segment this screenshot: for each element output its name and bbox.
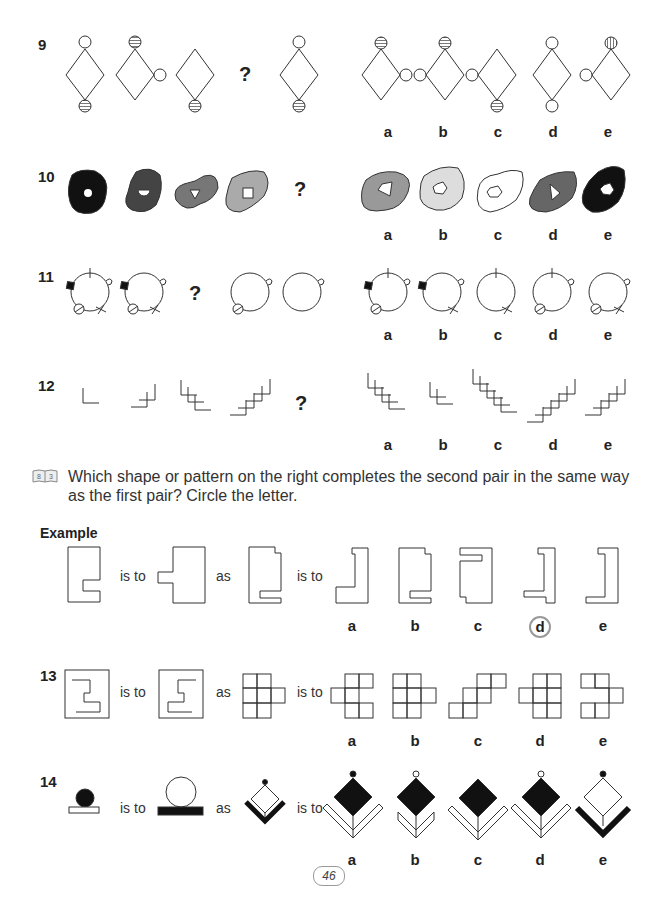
q9-option-e [580, 37, 630, 100]
example-option-b-shape [399, 548, 431, 603]
q9-figure-5 [280, 36, 318, 112]
q9-option-a [362, 37, 412, 100]
q13-option-e [581, 674, 623, 718]
example-option-a-shape [336, 548, 368, 603]
q10-option-a [362, 172, 410, 211]
q13-figure-1 [65, 670, 109, 718]
example-option-e-shape [586, 548, 618, 603]
q9-figure-2 [116, 36, 166, 100]
example-option-d-shape [524, 548, 555, 603]
q11-option-c [477, 268, 515, 314]
example-figure-2 [158, 547, 205, 603]
q11-option-a [364, 268, 410, 314]
q14-option-e [577, 771, 629, 834]
q12-figure-2 [131, 384, 155, 407]
q13-option-d [519, 674, 561, 718]
q11-option-e [589, 273, 630, 314]
q13-option-a [331, 674, 373, 718]
q10-figure-4 [226, 171, 268, 212]
puzzle-figures [0, 0, 653, 916]
q12-figure-4 [230, 379, 270, 415]
q11-figure-5 [283, 273, 324, 311]
example-figure-1 [68, 547, 100, 602]
q13-figure-2 [159, 670, 203, 718]
q11-figure-1 [66, 268, 112, 314]
q14-figure-2 [158, 777, 203, 815]
q9-option-b [414, 37, 464, 100]
q11-option-b [418, 273, 464, 314]
q14-figure-3 [246, 780, 284, 822]
q10-figure-1 [68, 170, 106, 213]
q12-figure-1 [83, 388, 99, 403]
q10-figure-3 [175, 175, 218, 208]
q14-option-a [323, 771, 383, 838]
q10-option-d [529, 172, 576, 212]
q9-figure-1 [66, 36, 104, 112]
q14-figure-1 [69, 789, 99, 813]
q14-option-b [397, 771, 435, 838]
q11-figure-2 [120, 273, 166, 314]
q14-option-c [448, 779, 508, 840]
q12-option-c [473, 369, 517, 412]
q13-option-b [393, 674, 436, 718]
q14-option-d [511, 771, 571, 838]
q10-figure-2 [126, 169, 162, 212]
q12-figure-3 [181, 380, 211, 410]
q12-option-d [527, 379, 575, 422]
q13-option-c [449, 674, 506, 718]
q10-option-c [477, 170, 523, 212]
q13-figure-3 [243, 674, 285, 718]
q12-option-a [368, 373, 405, 409]
q11-option-d [533, 268, 574, 314]
q11-figure-4 [231, 273, 272, 314]
q12-option-b [430, 382, 453, 404]
q9-option-d [533, 37, 571, 112]
q10-option-e [582, 166, 625, 212]
q9-option-c [466, 49, 516, 112]
q10-option-b [420, 167, 464, 210]
q12-option-e [585, 379, 625, 415]
q9-figure-3 [176, 49, 214, 112]
example-figure-3 [249, 547, 281, 603]
example-option-c-shape [460, 548, 492, 603]
